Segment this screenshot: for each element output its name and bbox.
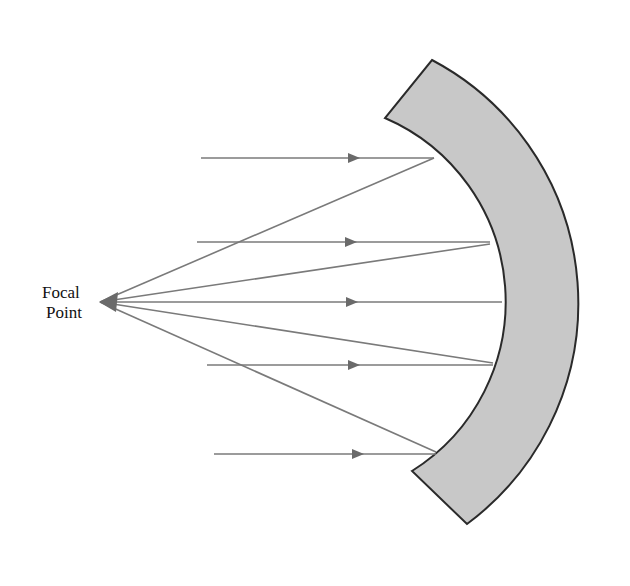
reflected-ray-1 (100, 158, 434, 302)
arrow-head-1 (348, 153, 360, 163)
focal-point-marker (99, 292, 118, 312)
arrow-head-2 (345, 237, 357, 247)
reflected-ray-5 (100, 302, 436, 452)
arrow-head-5 (352, 449, 364, 459)
arrow-head-3 (346, 297, 358, 307)
focal-label-line1: Focal (42, 283, 80, 302)
reflected-ray-2 (100, 244, 490, 302)
concave-mirror-diagram: Focal Point (0, 0, 630, 586)
arrow-head-4 (348, 360, 360, 370)
reflected-rays (100, 158, 493, 452)
incoming-rays (100, 153, 502, 459)
focal-label-line2: Point (46, 303, 82, 322)
reflected-ray-4 (100, 302, 493, 363)
